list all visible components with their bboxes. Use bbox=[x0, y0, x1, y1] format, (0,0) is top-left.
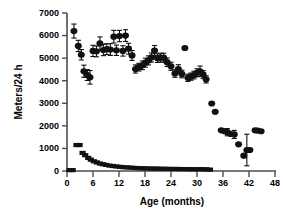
data-point-circle bbox=[70, 28, 77, 34]
data-point-circle bbox=[240, 153, 247, 159]
data-point-square bbox=[70, 168, 76, 172]
x-tick-label: 0 bbox=[64, 178, 69, 188]
data-point-circle bbox=[178, 71, 185, 77]
x-tick-label: 42 bbox=[244, 178, 254, 188]
data-point-circle bbox=[75, 43, 82, 49]
y-tick-label: 2000 bbox=[39, 121, 59, 131]
data-point-circle bbox=[148, 54, 155, 60]
data-point-circle bbox=[107, 46, 114, 52]
series-squares bbox=[67, 143, 214, 172]
data-point-circle bbox=[235, 141, 242, 147]
scatter-plot: 01000200030004000500060007000 0612182430… bbox=[0, 0, 284, 212]
data-point-circle bbox=[151, 48, 158, 54]
data-point-circle bbox=[246, 147, 253, 153]
x-tick-label: 12 bbox=[114, 178, 124, 188]
y-axis-ticks: 01000200030004000500060007000 bbox=[39, 8, 67, 176]
y-tick-label: 1000 bbox=[39, 143, 59, 153]
x-axis-ticks: 0612182430364248 bbox=[64, 171, 280, 188]
data-point-square bbox=[76, 143, 82, 147]
data-point-square bbox=[207, 168, 213, 172]
data-point-circle bbox=[78, 52, 85, 58]
x-tick-label: 30 bbox=[192, 178, 202, 188]
data-point-circle bbox=[258, 128, 265, 134]
x-tick-label: 48 bbox=[270, 178, 280, 188]
data-point-circle bbox=[113, 47, 120, 53]
data-point-circle bbox=[168, 63, 175, 69]
chart-figure: 01000200030004000500060007000 0612182430… bbox=[0, 0, 284, 212]
x-tick-label: 36 bbox=[218, 178, 228, 188]
data-point-circle bbox=[96, 40, 103, 46]
data-point-circle bbox=[208, 100, 215, 106]
y-tick-label: 7000 bbox=[39, 8, 59, 18]
data-point-circle bbox=[116, 33, 123, 39]
x-tick-label: 18 bbox=[140, 178, 150, 188]
series-circles bbox=[70, 24, 264, 166]
data-point-circle bbox=[122, 32, 129, 38]
y-tick-label: 3000 bbox=[39, 98, 59, 108]
data-point-circle bbox=[231, 131, 238, 137]
data-point-circle bbox=[86, 74, 93, 80]
data-point-circle bbox=[129, 52, 136, 58]
y-tick-label: 5000 bbox=[39, 53, 59, 63]
x-axis-title: Age (months) bbox=[140, 196, 204, 207]
data-point-circle bbox=[181, 45, 188, 51]
data-point-circle bbox=[203, 76, 210, 82]
y-tick-label: 6000 bbox=[39, 30, 59, 40]
y-tick-label: 0 bbox=[54, 166, 59, 176]
y-axis-title: Meters/24 h bbox=[13, 64, 24, 119]
x-tick-label: 6 bbox=[90, 178, 95, 188]
data-point-circle bbox=[125, 46, 132, 52]
x-tick-label: 24 bbox=[166, 178, 176, 188]
data-point-circle bbox=[93, 48, 100, 54]
data-point-circle bbox=[212, 109, 219, 115]
y-tick-label: 4000 bbox=[39, 76, 59, 86]
